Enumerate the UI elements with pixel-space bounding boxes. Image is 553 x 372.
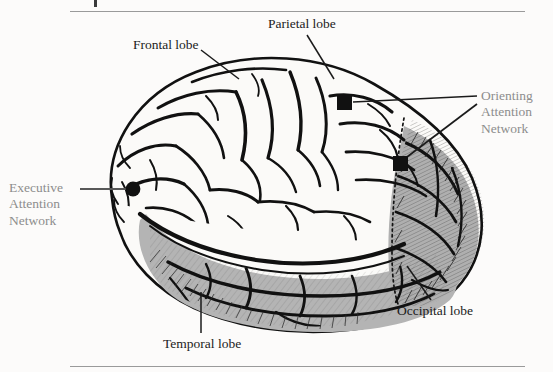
label-executive-attention-network: Executive Attention Network <box>9 180 63 229</box>
brain-attention-networks-figure: Frontal lobe Parietal lobe Temporal lobe… <box>0 0 553 372</box>
executive-label-line-2: Attention <box>9 196 63 212</box>
label-frontal-lobe: Frontal lobe <box>133 37 199 53</box>
label-orienting-attention-network: Orienting Attention Network <box>481 88 533 137</box>
orienting-label-line-3: Network <box>481 121 533 137</box>
label-parietal-lobe: Parietal lobe <box>268 16 336 32</box>
orienting-attention-superior-site-marker <box>337 95 352 110</box>
label-temporal-lobe: Temporal lobe <box>163 336 241 352</box>
executive-attention-site-marker <box>126 182 141 197</box>
orienting-label-line-1: Orienting <box>481 88 533 104</box>
orienting-attention-posterior-site-marker <box>393 156 408 171</box>
executive-label-line-1: Executive <box>9 180 63 196</box>
executive-label-line-3: Network <box>9 213 63 229</box>
label-occipital-lobe: Occipital lobe <box>397 303 473 319</box>
orienting-label-line-2: Attention <box>481 104 533 120</box>
